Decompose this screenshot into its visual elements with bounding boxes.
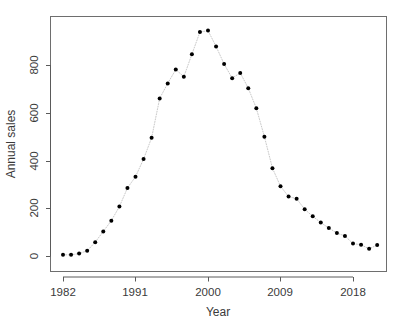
data-point xyxy=(359,243,363,247)
data-point xyxy=(117,205,121,209)
scatter-plot: 0200400600800 19821991200020092018 Year … xyxy=(0,0,415,324)
y-axis-tick-label: 600 xyxy=(28,103,40,122)
data-point xyxy=(246,86,250,90)
data-point xyxy=(150,136,154,140)
data-point xyxy=(77,252,81,256)
data-point xyxy=(351,242,355,246)
data-point xyxy=(206,29,210,33)
data-point xyxy=(270,166,274,170)
data-point xyxy=(198,30,202,34)
y-axis-title: Annual sales xyxy=(4,110,18,179)
data-point xyxy=(303,207,307,211)
data-point xyxy=(319,221,323,225)
y-axis-tick-label: 200 xyxy=(28,198,40,217)
data-point xyxy=(69,253,73,257)
data-point xyxy=(134,175,138,179)
x-axis-tick-label: 1982 xyxy=(50,286,76,298)
data-point xyxy=(279,184,283,188)
data-point xyxy=(190,52,194,56)
data-point xyxy=(254,106,258,110)
y-axis-tick-label: 800 xyxy=(28,55,40,74)
data-point xyxy=(343,234,347,238)
data-point xyxy=(222,62,226,66)
data-point xyxy=(142,157,146,161)
data-point xyxy=(125,186,129,190)
x-axis-tick-label: 1991 xyxy=(122,286,148,298)
data-point xyxy=(367,247,371,251)
plot-background xyxy=(0,0,415,324)
data-point xyxy=(158,96,162,100)
y-axis-tick-label: 400 xyxy=(28,151,40,170)
data-point xyxy=(85,249,89,253)
data-point xyxy=(166,81,170,85)
data-point xyxy=(214,44,218,48)
data-point xyxy=(93,240,97,244)
data-point xyxy=(174,68,178,72)
data-point xyxy=(311,214,315,218)
x-axis-title: Year xyxy=(206,305,230,319)
data-point xyxy=(327,226,331,230)
data-point xyxy=(101,229,105,233)
data-point xyxy=(182,75,186,79)
data-point xyxy=(61,253,65,257)
y-axis-tick-label: 0 xyxy=(28,253,40,259)
data-point xyxy=(287,195,291,199)
data-point xyxy=(230,76,234,80)
data-point xyxy=(295,197,299,201)
x-axis-tick-label: 2009 xyxy=(267,286,293,298)
data-point xyxy=(335,231,339,235)
x-axis-tick-label: 2018 xyxy=(340,286,366,298)
data-point xyxy=(238,71,242,75)
data-point xyxy=(262,135,266,139)
x-axis-tick-label: 2000 xyxy=(195,286,221,298)
data-point xyxy=(109,219,113,223)
data-point xyxy=(375,243,379,247)
chart-figure: 0200400600800 19821991200020092018 Year … xyxy=(0,0,415,324)
